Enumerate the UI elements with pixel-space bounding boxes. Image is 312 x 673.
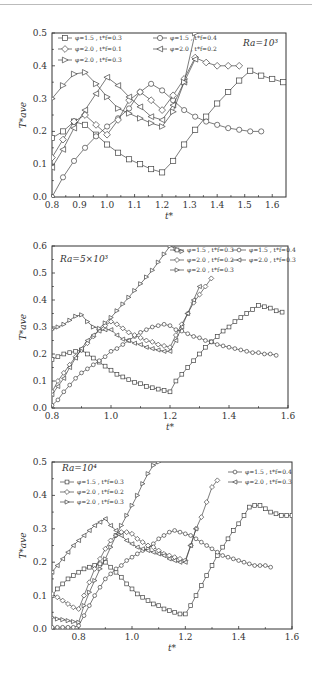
circle-marker [56,398,60,402]
ra-annotation: Ra=5×10³ [59,254,109,264]
square-marker [173,610,177,614]
circle-marker [269,565,273,569]
square-marker [66,577,70,581]
diamond-marker [120,326,125,331]
circle-marker [98,585,102,589]
square-marker [192,359,196,363]
series-line [52,71,283,173]
square-marker [290,514,294,518]
x-tick-label: 0.8 [72,632,87,642]
square-marker [227,325,231,329]
x-axis: 0.81.01.21.41.6 [45,405,296,421]
square-marker [285,514,289,518]
square-marker [109,565,113,569]
diamond-marker [98,556,103,561]
circle-marker [91,363,95,367]
circle-marker [198,336,202,340]
square-marker [98,562,102,566]
square-marker [86,352,90,356]
circle-marker [139,331,143,335]
circle-marker [192,335,196,339]
triangle-right-marker [61,618,65,622]
x-tick-label: 1.1 [127,200,141,210]
triangle-right-marker [65,500,69,504]
diamond-marker [65,490,70,495]
triangle-left-marker [56,384,60,388]
square-marker [274,512,278,516]
square-marker [180,372,184,376]
diamond-marker [103,546,108,551]
circle-marker [97,359,101,363]
square-marker [125,582,129,586]
circle-marker [204,119,209,124]
legend-item: φ=1.5 , t*f=0.3 [60,478,124,486]
triangle-left-marker [132,341,136,345]
triangle-left-marker [151,550,155,554]
y-tick-label: 0.1 [33,591,47,601]
circle-marker [130,555,134,559]
square-marker [133,380,137,384]
triangle-left-marker [60,147,66,153]
legend-item: φ=2.0 , t*f=0.3 [58,56,122,64]
y-axis-title: T*ave [18,532,28,558]
square-marker [263,507,267,511]
circle-marker [237,127,242,132]
square-marker [167,609,171,613]
x-axis: 0.81.01.21.41.6 [72,626,300,642]
y-axis-title: T*ave [18,102,28,128]
legend-item: φ=1.5 , t*f=0.3 [58,34,122,42]
circle-marker [109,572,113,576]
square-marker [251,308,255,312]
square-marker [65,480,69,484]
series-line [52,84,261,197]
triangle-right-marker [66,619,70,623]
diamond-marker [71,605,76,610]
triangle-left-marker [138,342,142,346]
square-marker [74,349,78,353]
square-marker [263,305,267,309]
triangle-left-marker [159,117,165,123]
square-marker [274,309,278,313]
circle-marker [104,124,109,129]
triangle-right-marker [74,314,78,318]
square-marker [82,122,87,127]
circle-marker [87,604,91,608]
triangle-left-marker [150,347,154,351]
legend-item: φ=2.0 , t*f=0.2 [60,488,124,496]
square-marker [258,504,262,508]
square-marker [182,142,187,147]
circle-marker [82,614,86,618]
diamond-marker [203,59,210,66]
triangle-right-marker [137,115,143,121]
triangle-left-marker [197,284,201,288]
series-group [50,460,294,629]
triangle-left-marker [109,328,113,332]
triangle-left-marker [98,520,102,524]
x-tick-label: 1.2 [163,411,177,421]
square-marker [257,304,261,308]
triangle-left-marker [60,557,64,561]
square-marker [77,570,81,574]
circle-marker [150,325,154,329]
square-marker [280,310,284,314]
circle-marker [49,194,54,199]
circle-marker [103,577,107,581]
triangle-left-marker [93,91,99,97]
square-marker [204,114,209,119]
square-marker [121,375,125,379]
square-marker [141,595,145,599]
diamond-marker [209,276,214,281]
square-marker [49,135,54,140]
diamond-marker [197,292,202,297]
circle-marker [125,559,129,563]
triangle-left-marker [71,125,77,131]
legend-label: φ=1.5 , t*f=0.4 [249,246,296,254]
triangle-left-marker [144,345,148,349]
circle-marker [173,529,177,533]
square-marker [215,335,219,339]
y-tick-label: 0.0 [33,624,48,634]
circle-marker [114,567,118,571]
circle-marker [182,107,187,112]
square-marker [175,248,179,252]
legend-label: φ=2.0 , t*f=0.3 [75,56,122,64]
